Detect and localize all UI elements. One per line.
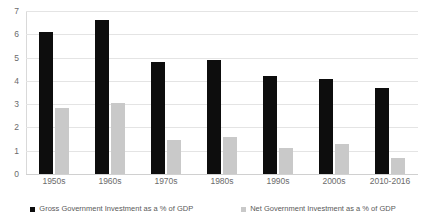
bar-group: [319, 11, 349, 174]
y-axis-tick-label: 7: [14, 7, 19, 16]
bar-group: [207, 11, 237, 174]
bar-group: [151, 11, 181, 174]
bar-net[interactable]: [223, 137, 237, 174]
legend-item-label: Net Government Investment as a % of GDP: [250, 205, 395, 213]
x-axis-tick-label: 1990s: [266, 177, 289, 186]
y-axis-tick-label: 0: [14, 170, 19, 179]
bar-net[interactable]: [111, 103, 125, 174]
y-axis-tick-label: 3: [14, 100, 19, 109]
plot-area: [26, 11, 418, 174]
bar-group: [375, 11, 405, 174]
square-marker-black-icon: [30, 207, 35, 212]
gridline: [26, 174, 418, 175]
x-axis-tick-label: 1960s: [98, 177, 121, 186]
bar-gross[interactable]: [263, 76, 277, 174]
bar-group: [95, 11, 125, 174]
y-axis-tick-label: 1: [14, 146, 19, 155]
bar-gross[interactable]: [151, 62, 165, 174]
bar-chart: 01234567 1950s1960s1970s1980s1990s2000s2…: [0, 0, 426, 224]
x-axis: 1950s1960s1970s1980s1990s2000s2010-2016: [26, 177, 418, 191]
y-axis: 01234567: [0, 0, 24, 185]
x-axis-tick-label: 2000s: [322, 177, 345, 186]
y-axis-tick-label: 6: [14, 30, 19, 39]
bar-net[interactable]: [55, 108, 69, 174]
y-axis-tick-label: 4: [14, 77, 19, 86]
square-marker-gray-icon: [241, 207, 246, 212]
bar-net[interactable]: [391, 158, 405, 174]
x-axis-tick-label: 1950s: [42, 177, 65, 186]
legend-item-gross[interactable]: Gross Government Investment as a % of GD…: [30, 205, 193, 213]
bar-group: [39, 11, 69, 174]
chart-legend: Gross Government Investment as a % of GD…: [0, 202, 426, 216]
bar-gross[interactable]: [95, 20, 109, 174]
bar-gross[interactable]: [39, 32, 53, 174]
x-axis-tick-label: 1980s: [210, 177, 233, 186]
bar-group: [263, 11, 293, 174]
x-axis-tick-label: 1970s: [154, 177, 177, 186]
bar-net[interactable]: [279, 148, 293, 174]
legend-item-net[interactable]: Net Government Investment as a % of GDP: [241, 205, 395, 213]
legend-item-label: Gross Government Investment as a % of GD…: [39, 205, 193, 213]
y-axis-tick-label: 2: [14, 123, 19, 132]
bar-net[interactable]: [335, 144, 349, 174]
bar-gross[interactable]: [375, 88, 389, 174]
bar-net[interactable]: [167, 140, 181, 174]
y-axis-tick-label: 5: [14, 53, 19, 62]
bar-gross[interactable]: [207, 60, 221, 174]
x-axis-tick-label: 2010-2016: [370, 177, 411, 186]
bar-gross[interactable]: [319, 79, 333, 174]
